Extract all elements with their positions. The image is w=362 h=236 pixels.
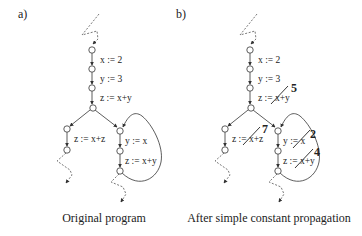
node-left-1: [64, 126, 70, 132]
stmt-z-assign: z := x+y: [258, 93, 290, 103]
stmt-left-z-assign: z := x+z: [74, 134, 105, 144]
value-right2: 4: [314, 145, 320, 159]
right-outgoing-dashed-edge: [269, 174, 284, 202]
node-2: [89, 66, 95, 72]
left-outgoing-dashed-edge: [215, 153, 230, 183]
incoming-dashed-edge: [240, 14, 257, 44]
edge-branch-left: [228, 110, 248, 126]
value-s3: 5: [291, 81, 297, 95]
node-right-2: [275, 148, 281, 154]
value-left: 7: [262, 122, 268, 136]
stmt-right-z-assign: z := x+y: [283, 156, 315, 166]
node-right-1: [117, 128, 123, 134]
node-left-1: [222, 126, 228, 132]
panel-a-label: a): [18, 7, 27, 21]
stmt-z-assign: z := x+y: [100, 93, 132, 103]
stmt-x-assign: x := 2: [258, 55, 280, 65]
node-right-1: [275, 128, 281, 134]
node-1: [247, 47, 253, 53]
node-3: [247, 85, 253, 91]
node-1: [89, 47, 95, 53]
panel-b: b) x := 2 y := 3 z := x+y z := x+z y := …: [176, 7, 351, 225]
stmt-right-y-assign: y := x: [125, 136, 147, 146]
panel-b-label: b): [176, 7, 186, 21]
value-right1: 2: [310, 127, 316, 141]
node-right-3: [117, 168, 123, 174]
caption-original: Original program: [62, 211, 146, 225]
node-right-2: [117, 148, 123, 154]
node-branch: [248, 105, 254, 111]
stmt-y-assign: y := 3: [100, 74, 122, 84]
cfg-diagram: a) x := 2 y := 3 z := x+y z :=: [0, 0, 362, 236]
node-left-2: [222, 147, 228, 153]
incoming-dashed-edge: [82, 14, 99, 44]
node-left-2: [64, 147, 70, 153]
node-right-3: [275, 168, 281, 174]
node-branch: [90, 105, 96, 111]
loop-back-edge: [122, 114, 161, 182]
node-3: [89, 85, 95, 91]
right-outgoing-dashed-edge: [111, 174, 126, 202]
node-2: [247, 66, 253, 72]
left-outgoing-dashed-edge: [57, 153, 72, 183]
stmt-right-z-assign: z := x+y: [125, 156, 157, 166]
stmt-x-assign: x := 2: [100, 55, 122, 65]
stmt-right-y-assign: y := x: [283, 136, 305, 146]
caption-after-propagation: After simple constant propagation: [187, 211, 351, 225]
panel-a: a) x := 2 y := 3 z := x+y z :=: [18, 7, 161, 225]
stmt-left-z-assign: z := x+z: [232, 134, 263, 144]
edge-branch-right: [95, 110, 117, 127]
edge-branch-left: [70, 110, 90, 126]
stmt-y-assign: y := 3: [258, 74, 280, 84]
